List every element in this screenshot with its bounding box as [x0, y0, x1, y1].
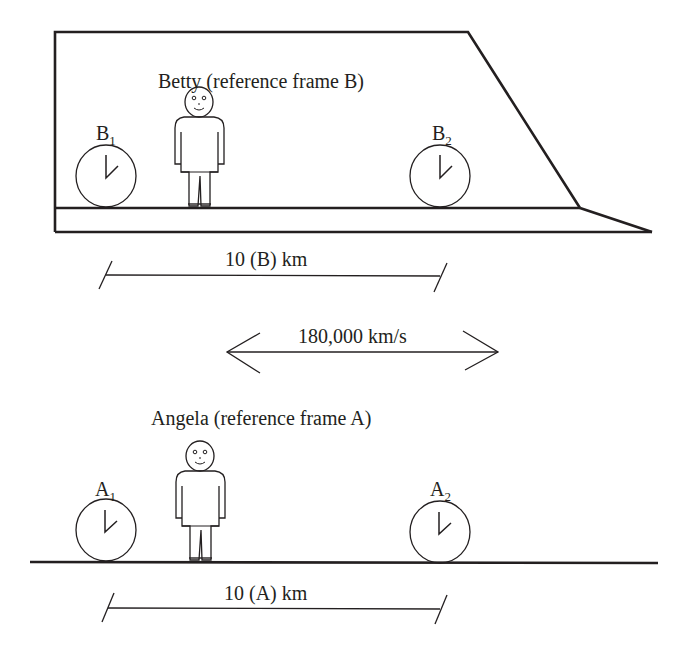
- clock-icon: [410, 501, 470, 563]
- distance-b-label: 10 (B) km: [225, 248, 308, 271]
- train-body-outline: [55, 32, 580, 208]
- velocity-label: 180,000 km/s: [298, 325, 407, 347]
- clock-icon: [76, 499, 136, 561]
- clock-a1: A1: [76, 478, 136, 561]
- clock-b2-label: B2: [432, 122, 452, 148]
- distance-b-line: [106, 275, 440, 276]
- arrow-left-head-icon: [227, 333, 260, 373]
- clock-hands-icon: [105, 510, 117, 532]
- clock-hands-icon: [440, 155, 452, 178]
- clock-b1-label: B1: [96, 122, 116, 148]
- clock-hands-icon: [439, 512, 451, 534]
- clock-hands-icon: [106, 155, 118, 178]
- distance-b-tick-right: [434, 263, 447, 292]
- train-car: [55, 32, 652, 232]
- clock-b2: B2: [410, 122, 470, 207]
- train-nose: [580, 208, 652, 232]
- distance-a: 10 (A) km: [102, 582, 447, 624]
- relativity-diagram: Betty (reference frame B) B1 B2 10 (B) k…: [0, 0, 688, 652]
- arrow-right-head-icon: [463, 331, 498, 370]
- betty-figure-icon: [175, 87, 224, 206]
- clock-b1: B1: [76, 122, 136, 207]
- velocity-arrow: 180,000 km/s: [227, 325, 498, 373]
- clock-a2-label: A2: [430, 478, 451, 504]
- betty-title: Betty (reference frame B): [158, 70, 364, 93]
- angela-figure-icon: [176, 441, 225, 560]
- distance-a-line: [108, 608, 440, 609]
- clock-a2: A2: [410, 478, 470, 563]
- ground-line: [30, 562, 658, 563]
- distance-a-label: 10 (A) km: [224, 582, 308, 605]
- distance-b: 10 (B) km: [99, 248, 447, 292]
- angela-title: Angela (reference frame A): [151, 407, 371, 430]
